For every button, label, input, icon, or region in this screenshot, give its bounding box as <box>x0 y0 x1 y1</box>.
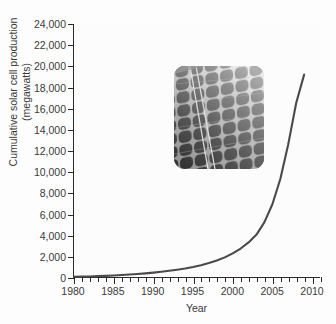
y-axis-tick-label: 12,000 <box>20 146 66 157</box>
x-axis-minor-tick-mark <box>138 277 139 282</box>
y-axis-tick-mark <box>68 193 74 194</box>
x-axis-major-tick-mark <box>233 277 234 284</box>
x-axis-minor-tick-mark <box>186 277 187 282</box>
x-axis-major-tick-mark <box>273 277 274 284</box>
x-axis-minor-tick-mark <box>241 277 242 282</box>
y-axis-tick-mark <box>68 257 74 258</box>
x-axis-minor-tick-mark <box>162 277 163 282</box>
x-axis-minor-tick-mark <box>265 277 266 282</box>
x-axis-minor-tick-mark <box>209 277 210 282</box>
x-axis-minor-tick-mark <box>305 277 306 282</box>
y-axis-tick-label: 10,000 <box>20 167 66 178</box>
x-axis-minor-tick-mark <box>249 277 250 282</box>
x-axis-major-tick-mark <box>194 277 195 284</box>
x-axis-major-tick-mark <box>154 277 155 284</box>
y-axis-tick-mark <box>68 66 74 67</box>
y-axis-tick-mark <box>68 236 74 237</box>
y-axis-tick-mark <box>68 24 74 25</box>
x-axis-minor-tick-mark <box>297 277 298 282</box>
cumulative-solar-production-line <box>74 75 304 277</box>
x-axis-tick-label: 1990 <box>131 285 175 297</box>
y-axis-tick-label: 8,000 <box>20 188 66 199</box>
y-axis-tick-label: 16,000 <box>20 103 66 114</box>
x-axis-minor-tick-mark <box>225 277 226 282</box>
y-axis-tick-mark <box>68 45 74 46</box>
x-axis-minor-tick-mark <box>82 277 83 282</box>
y-axis-tick-label-group: 24,00022,00020,00018,00016,00014,00012,0… <box>20 18 66 280</box>
y-axis-tick-label: 0 <box>20 273 66 284</box>
x-axis-major-tick-mark <box>313 277 314 284</box>
y-axis-tick-mark <box>68 109 74 110</box>
x-axis-tick-label: 2010 <box>290 285 334 297</box>
y-axis-tick-mark <box>68 215 74 216</box>
y-axis-tick-mark <box>68 172 74 173</box>
x-axis-minor-tick-mark <box>106 277 107 282</box>
x-axis-minor-tick-mark <box>90 277 91 282</box>
y-axis-tick-mark <box>68 88 74 89</box>
x-axis-minor-tick-mark <box>217 277 218 282</box>
x-axis-minor-tick-mark <box>281 277 282 282</box>
y-axis-tick-label: 22,000 <box>20 40 66 51</box>
x-axis-tick-label: 2005 <box>250 285 294 297</box>
x-axis-minor-tick-mark <box>289 277 290 282</box>
y-axis-tick-label: 14,000 <box>20 124 66 135</box>
x-axis-minor-tick-mark <box>321 277 322 282</box>
y-axis-tick-label: 4,000 <box>20 230 66 241</box>
x-axis-minor-tick-mark <box>130 277 131 282</box>
x-axis-minor-tick-mark <box>98 277 99 282</box>
x-axis-tick-label-group: 1980198519901995200020052010 <box>73 285 325 299</box>
x-axis-major-tick-mark <box>74 277 75 284</box>
plot-area <box>73 24 320 278</box>
x-axis-tick-label: 2000 <box>210 285 254 297</box>
data-series-line <box>74 24 320 277</box>
x-axis-minor-tick-mark <box>170 277 171 282</box>
x-axis-minor-tick-mark <box>146 277 147 282</box>
x-axis-tick-label: 1995 <box>171 285 215 297</box>
y-axis-title-line-1: Cumulative solar cell production <box>7 0 20 197</box>
x-axis-major-tick-mark <box>114 277 115 284</box>
x-axis-tick-label: 1980 <box>51 285 95 297</box>
y-axis-tick-label: 6,000 <box>20 209 66 220</box>
y-axis-tick-label: 20,000 <box>20 61 66 72</box>
y-axis-tick-label: 2,000 <box>20 251 66 262</box>
y-axis-tick-label: 18,000 <box>20 82 66 93</box>
x-axis-minor-tick-mark <box>257 277 258 282</box>
x-axis-minor-tick-mark <box>178 277 179 282</box>
x-axis-title: Year <box>73 302 320 314</box>
plot-inner <box>74 24 320 277</box>
y-axis-tick-mark <box>68 130 74 131</box>
y-axis-tick-mark <box>68 151 74 152</box>
x-axis-minor-tick-mark <box>201 277 202 282</box>
x-axis-minor-tick-mark <box>122 277 123 282</box>
solar-production-chart-figure: Cumulative solar cell production (megawa… <box>0 0 336 324</box>
x-axis-tick-label: 1985 <box>91 285 135 297</box>
y-axis-tick-label: 24,000 <box>20 19 66 30</box>
